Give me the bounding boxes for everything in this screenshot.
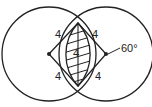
- label-side-bottom-left: 4: [55, 70, 61, 82]
- diagram: 4 4 4 4 4 60°: [0, 0, 152, 107]
- label-side-top-left: 4: [55, 28, 61, 40]
- label-side-bottom-right: 4: [95, 70, 101, 82]
- label-chord: 4: [73, 47, 79, 59]
- right-center-dot: [104, 52, 108, 56]
- label-side-top-right: 4: [92, 28, 98, 40]
- label-angle: 60°: [121, 42, 138, 54]
- left-center-dot: [47, 52, 51, 56]
- angle-pointer: [108, 48, 120, 54]
